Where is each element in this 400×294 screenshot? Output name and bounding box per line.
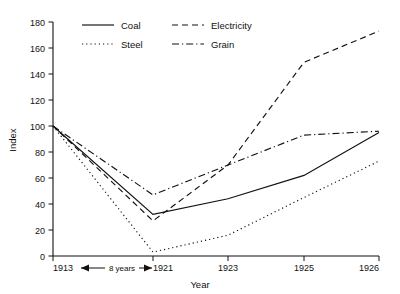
y-tick-label-120: 120 (30, 96, 45, 106)
y-tick-label-60: 60 (35, 174, 45, 184)
y-tick-label-160: 160 (30, 44, 45, 54)
legend-entry-coal: Coal (82, 20, 141, 31)
legend-label-electricity: Electricity (211, 20, 252, 31)
legend-label-steel: Steel (121, 39, 143, 50)
x-tick-label-1923: 1923 (218, 263, 238, 273)
axis-x: 1913 1921 1923 1925 1926 Year (53, 256, 379, 290)
y-tick-label-80: 80 (35, 148, 45, 158)
x-axis-title: Year (190, 279, 209, 290)
arrow-right-icon (144, 265, 152, 272)
y-tick-label-40: 40 (35, 200, 45, 210)
x-tick-label-1913: 1913 (53, 263, 73, 273)
y-tick-label-140: 140 (30, 70, 45, 80)
x-tick-label-1921: 1921 (153, 263, 173, 273)
axis-y: 180 160 140 120 100 80 60 40 20 0 Index (7, 18, 53, 262)
legend-entry-steel: Steel (82, 39, 143, 50)
y-axis-title: Index (7, 128, 18, 151)
series-line-electricity (53, 31, 379, 221)
arrow-left-icon (81, 265, 89, 272)
annotation-eight-years: 8 years (81, 264, 152, 273)
annotation-label-eight-years: 8 years (109, 264, 135, 273)
series-line-steel (53, 126, 379, 252)
series-group (53, 31, 379, 252)
legend-entry-grain: Grain (172, 39, 234, 50)
legend-entry-electricity: Electricity (172, 20, 252, 31)
y-tick-label-0: 0 (40, 252, 45, 262)
legend-label-coal: Coal (121, 20, 141, 31)
x-tick-label-1925: 1925 (294, 263, 314, 273)
y-tick-label-100: 100 (30, 122, 45, 132)
x-tick-label-1926: 1926 (359, 263, 379, 273)
chart-legend: Coal Electricity Steel Grain (82, 20, 252, 50)
y-tick-label-20: 20 (35, 226, 45, 236)
chart-figure: Coal Electricity Steel Grain (0, 0, 400, 294)
legend-label-grain: Grain (211, 39, 234, 50)
y-tick-label-180: 180 (30, 18, 45, 28)
line-chart: Coal Electricity Steel Grain (0, 0, 400, 294)
